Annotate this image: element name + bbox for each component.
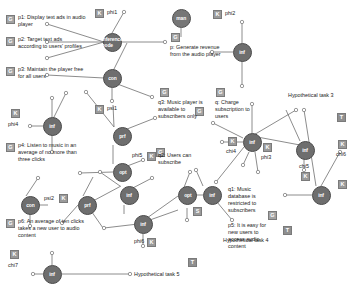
label-phi4: phi4 [8,121,18,128]
goal-badge[interactable]: G [6,15,15,24]
label-chi6: chi6 [336,151,346,158]
softgoal-badge[interactable]: S [193,207,202,216]
label-p1: p1: Display text ads in audio player [18,14,86,28]
goal-badge[interactable]: G [6,37,15,46]
task-badge[interactable]: T [188,258,197,267]
label-hypothetical-task-5: Hypothetical task 5 [134,271,180,278]
node-inf[interactable]: inf [243,133,262,152]
label-chi7: chi7 [8,262,18,269]
goal-badge[interactable]: G [160,88,169,97]
goal-badge[interactable]: G [6,143,15,152]
knowledge-badge[interactable]: K [10,250,19,259]
label-p: p: Generate revenue from the audio playe… [170,44,222,58]
node-con[interactable]: con [21,196,40,215]
label-chi4: chi4 [226,148,236,155]
label-p6: p6: An average of ten clicks takes a new… [18,218,86,239]
label-q3: q3: Music player is available to subscri… [158,99,204,120]
goal-badge[interactable]: G [6,67,15,76]
knowledge-badge[interactable]: K [263,143,272,152]
knowledge-badge[interactable]: K [213,10,222,19]
label-phi2: phi2 [225,10,235,17]
node-man[interactable]: man [172,9,191,28]
node-inf[interactable]: inf [233,43,252,62]
label-q1: q1: Music database is restricted to subs… [228,186,274,215]
node-inf[interactable]: inf [312,186,331,205]
label-phi5: phi5 [132,152,142,159]
task-badge[interactable]: T [283,226,292,235]
node-inf[interactable]: inference-node [103,33,122,52]
label-q: q: Charge subscription to users [215,99,261,120]
node-inf[interactable]: inf [296,141,315,160]
knowledge-badge[interactable]: K [338,180,347,189]
node-inf[interactable]: inf [43,117,62,136]
label-hypothetical-task-3: Hypothetical task 3 [288,92,334,99]
label-phi6: phi6 [134,238,144,245]
label-phi3: phi3 [261,154,271,161]
knowledge-badge[interactable]: K [228,137,237,146]
label-phi1: phi1 [107,9,117,16]
node-inf[interactable]: inf [120,186,139,205]
label-p4: p4: Listen to music in an average of no … [18,142,86,163]
knowledge-badge[interactable]: K [59,194,68,203]
node-con[interactable]: con [103,69,122,88]
label-psi2: psi2 [44,195,54,202]
goal-badge[interactable]: G [6,219,15,228]
label-chi5: chi5 [299,163,309,170]
node-opt[interactable]: opt [113,163,132,182]
label-psi1: psi1 [107,105,117,112]
goal-badge[interactable]: G [171,33,180,42]
label-p3: p3: Maintain the player free for all use… [18,66,86,80]
label-p2: p2: Target text ads according to users' … [18,36,86,50]
knowledge-badge[interactable]: K [147,238,156,247]
node-inf[interactable]: inf [134,215,153,234]
task-badge[interactable]: T [337,113,346,122]
node-inf[interactable]: inf [43,265,62,284]
knowledge-badge[interactable]: K [301,172,310,181]
node-prf[interactable]: prf [78,196,97,215]
node-prf[interactable]: prf [113,127,132,146]
knowledge-badge[interactable]: K [147,152,156,161]
knowledge-badge[interactable]: K [338,140,347,149]
goal-badge[interactable]: G [216,88,225,97]
knowledge-badge[interactable]: K [95,105,104,114]
label-hypothetical-task-4: Hypothetical task 4 [223,237,269,244]
knowledge-badge[interactable]: K [11,109,20,118]
label-q2: q2: Users can subscribe [158,152,204,166]
node-opt[interactable]: opt [178,186,197,205]
knowledge-badge[interactable]: K [95,9,104,18]
diagram-canvas: inference-node con prf inf opt inf con p… [0,0,361,291]
node-inf[interactable]: inf [203,186,222,205]
